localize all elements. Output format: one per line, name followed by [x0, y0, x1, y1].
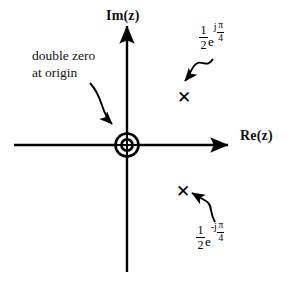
pole-lower-exponent: -j π 4 [211, 221, 225, 243]
imaginary-axis-label: Im(z) [106, 8, 140, 24]
pole-lower-label: 1 2 e -j π 4 [196, 224, 224, 251]
pole-lower-marker: ✕ [176, 183, 190, 200]
pole-lower-angle-fraction: π 4 [217, 221, 224, 243]
pole-lower-exponent-sign: -j [211, 221, 218, 232]
origin-annotation-line-2: at origin [32, 65, 95, 82]
pole-lower-magnitude-numerator: 1 [197, 224, 205, 236]
pole-upper-marker: ✕ [177, 89, 191, 106]
pole-upper-magnitude-numerator: 1 [200, 24, 208, 36]
origin-annotation-line-1: double zero [32, 48, 95, 65]
pole-zero-diagram: Im(z) Re(z) double zero at origin 1 2 e … [0, 0, 292, 281]
pole-lower-arrow [192, 193, 215, 222]
origin-annotation: double zero at origin [32, 48, 95, 81]
pole-lower-angle-numerator: π [217, 221, 224, 231]
pole-lower-magnitude-fraction: 1 2 [196, 224, 205, 251]
pole-upper-angle-numerator: π [217, 21, 224, 31]
pole-lower-magnitude-denominator: 2 [197, 239, 205, 251]
pole-upper-angle-fraction: π 4 [217, 21, 224, 43]
real-axis-label: Re(z) [240, 128, 273, 144]
origin-note-arrow [90, 83, 112, 124]
pole-upper-arrow [185, 59, 213, 81]
pole-upper-magnitude-denominator: 2 [200, 39, 208, 51]
pole-lower-angle-denominator: 4 [218, 234, 225, 244]
pole-upper-angle-denominator: 4 [217, 34, 224, 44]
pole-upper-exponent: j π 4 [214, 21, 224, 43]
pole-upper-magnitude-fraction: 1 2 [199, 24, 208, 51]
pole-upper-label: 1 2 e j π 4 [199, 24, 224, 51]
